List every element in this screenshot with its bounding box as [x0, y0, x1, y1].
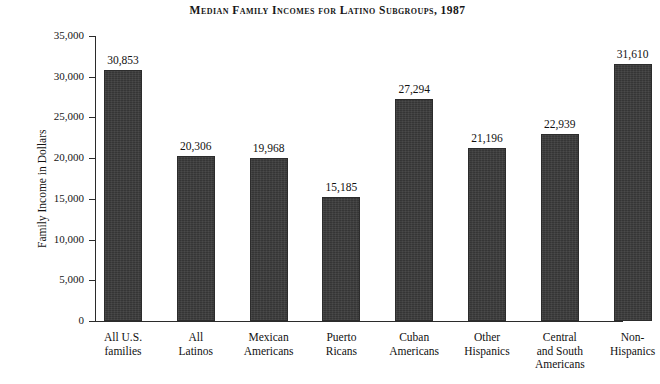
- x-axis-category-label: Centraland SouthAmericans: [518, 331, 602, 372]
- y-axis-tick-label: 35,000: [54, 29, 89, 41]
- category-label-line: Other: [445, 331, 529, 345]
- bar: [177, 156, 215, 321]
- category-label-line: Americans: [227, 345, 311, 359]
- y-axis-tick: [89, 158, 96, 159]
- y-axis-tick: [89, 77, 96, 78]
- x-axis-category-label: AllLatinos: [154, 331, 238, 358]
- category-label-line: Mexican: [227, 331, 311, 345]
- bar: [104, 70, 142, 321]
- category-label-line: Ricans: [299, 345, 383, 359]
- bar-value-label: 20,306: [156, 140, 236, 152]
- category-label-line: Americans: [518, 358, 602, 372]
- y-axis-tick: [89, 280, 96, 281]
- x-axis-category-label: PuertoRicans: [299, 331, 383, 358]
- category-label-line: Latinos: [154, 345, 238, 359]
- y-axis-tick-label: 5,000: [59, 273, 89, 285]
- category-label-line: families: [81, 345, 165, 359]
- y-axis-tick: [89, 36, 96, 37]
- bar-value-label: 15,185: [301, 181, 381, 193]
- x-axis-category-label: OtherHispanics: [445, 331, 529, 358]
- bar-value-label: 27,294: [374, 83, 454, 95]
- category-label-line: Hispanics: [591, 345, 660, 359]
- y-axis-tick-label: 10,000: [54, 233, 89, 245]
- bar: [322, 197, 360, 321]
- category-label-line: Americans: [372, 345, 456, 359]
- category-label-line: Hispanics: [445, 345, 529, 359]
- x-axis-category-label: CubanAmericans: [372, 331, 456, 358]
- y-axis-title: Family Income in Dollars: [36, 232, 48, 248]
- bar-value-label: 31,610: [593, 48, 660, 60]
- y-axis-tick: [89, 117, 96, 118]
- category-label-line: Central: [518, 331, 602, 345]
- bar: [541, 134, 579, 321]
- bar: [614, 64, 652, 321]
- bar: [468, 148, 506, 321]
- y-axis-tick: [89, 321, 96, 322]
- category-label-line: Puerto: [299, 331, 383, 345]
- bar-value-label: 19,968: [229, 142, 309, 154]
- bar-value-label: 21,196: [447, 132, 527, 144]
- category-label-line: Cuban: [372, 331, 456, 345]
- x-axis-category-label: All U.S.families: [81, 331, 165, 358]
- category-label-line: All U.S.: [81, 331, 165, 345]
- y-axis-tick: [89, 240, 96, 241]
- y-axis-tick-label: 20,000: [54, 151, 89, 163]
- category-label-line: Non-: [591, 331, 660, 345]
- y-axis-tick-label: 25,000: [54, 110, 89, 122]
- x-axis-line: [95, 321, 623, 322]
- category-label-line: All: [154, 331, 238, 345]
- y-axis-tick-label: 30,000: [54, 70, 89, 82]
- y-axis-tick: [89, 199, 96, 200]
- x-axis-category-label: MexicanAmericans: [227, 331, 311, 358]
- y-axis-line: [95, 36, 96, 322]
- y-axis-tick-label: 0: [79, 314, 90, 326]
- bar: [395, 99, 433, 321]
- category-label-line: and South: [518, 345, 602, 359]
- bar: [250, 158, 288, 321]
- x-axis-category-label: Non-Hispanics: [591, 331, 660, 358]
- bar-value-label: 22,939: [520, 118, 600, 130]
- bar-value-label: 30,853: [83, 54, 163, 66]
- y-axis-tick-label: 15,000: [54, 192, 89, 204]
